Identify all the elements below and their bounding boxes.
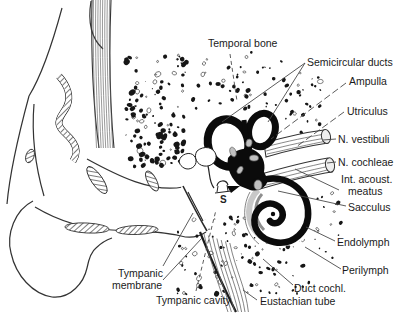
malleus-head [179, 153, 196, 169]
label-ampulla: Ampulla [349, 75, 387, 87]
incus [195, 148, 216, 167]
label-eustachian-tube: Eustachian tube [260, 295, 335, 307]
label-endolymph: Endolymph [337, 236, 390, 248]
leader-tympanic-membrane-1 [163, 213, 193, 266]
leader-tympanic-cavity [196, 210, 216, 291]
label-sacculus: Sacculus [348, 201, 391, 213]
label-n-cochleae: N. cochleae [338, 156, 394, 168]
leader-ampulla [271, 83, 346, 139]
label-semicircular-ducts: Semicircular ducts [307, 56, 393, 68]
label-int-acoust: Int. acoust. [341, 173, 392, 185]
sacculus-mark [254, 180, 262, 190]
label-tympanic-cavity: Tympanic cavity [156, 294, 231, 306]
label-perilymph: Perilymph [342, 264, 389, 276]
label-duct-cochl: Duct cochl. [294, 282, 346, 294]
label-tympanic: Tympanic [118, 267, 163, 279]
ear-diagram-canvas: Temporal bone Semicircular ducts Ampulla… [0, 0, 402, 319]
label-utriculus: Utriculus [347, 105, 388, 117]
label-temporal-bone: Temporal bone [208, 37, 278, 49]
leader-endolymph [306, 227, 335, 241]
label-stapes-s: S [220, 194, 227, 205]
tragus-cartilage [59, 76, 76, 161]
ear-anatomy-figure: Temporal bone Semicircular ducts Ampulla… [0, 0, 402, 319]
leader-perilymph [305, 247, 341, 269]
label-membrane: membrane [112, 279, 162, 291]
label-n-vestibuli: N. vestibuli [338, 133, 389, 145]
temporalis-muscle-band [92, 0, 114, 148]
label-meatus: meatus [348, 185, 382, 197]
utriculus-mark [250, 155, 259, 161]
